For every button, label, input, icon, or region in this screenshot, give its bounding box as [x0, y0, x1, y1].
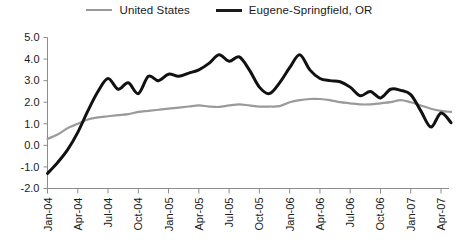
x-tick-label: Jan-06	[284, 198, 296, 232]
x-tick-label: Apr-05	[193, 198, 205, 231]
y-tick-label: 5.0	[24, 31, 39, 43]
x-tick-label: Jan-05	[163, 198, 175, 232]
y-tick-label: 3.0	[24, 74, 39, 86]
x-tick-label: Jul-06	[344, 198, 356, 228]
x-tick-label: Oct-05	[253, 198, 265, 231]
x-tick-label: Jul-05	[223, 198, 235, 228]
series-line-eugene-springfield	[48, 55, 452, 174]
x-axis: Jan-04Apr-04Jul-04Oct-04Jan-05Apr-05Jul-…	[42, 189, 450, 232]
x-tick-label: Jan-07	[405, 198, 417, 232]
y-tick-label: -2.0	[21, 182, 40, 194]
series-line-united-states	[48, 99, 452, 139]
x-tick-label: Oct-06	[374, 198, 386, 231]
y-tick-label: 1.0	[24, 118, 39, 130]
y-axis: 5.04.03.02.01.00.0-1.0-2.0	[21, 31, 48, 194]
y-tick-label: 2.0	[24, 96, 39, 108]
x-tick-label: Apr-04	[72, 198, 84, 231]
y-tick-label: 4.0	[24, 53, 39, 65]
x-tick-label: Oct-04	[132, 198, 144, 231]
data-series-group	[48, 55, 452, 174]
y-tick-label: 0.0	[24, 139, 39, 151]
x-tick-label: Jul-04	[102, 198, 114, 228]
y-tick-label: -1.0	[21, 161, 40, 173]
plot-svg: 5.04.03.02.01.00.0-1.0-2.0 Jan-04Apr-04J…	[0, 0, 459, 250]
x-tick-label: Apr-07	[435, 198, 447, 231]
x-tick-label: Jan-04	[42, 198, 54, 232]
plot-area: 5.04.03.02.01.00.0-1.0-2.0 Jan-04Apr-04J…	[0, 0, 459, 250]
x-tick-label: Apr-06	[314, 198, 326, 231]
chart-container: United States Eugene-Springfield, OR 5.0…	[0, 0, 459, 250]
